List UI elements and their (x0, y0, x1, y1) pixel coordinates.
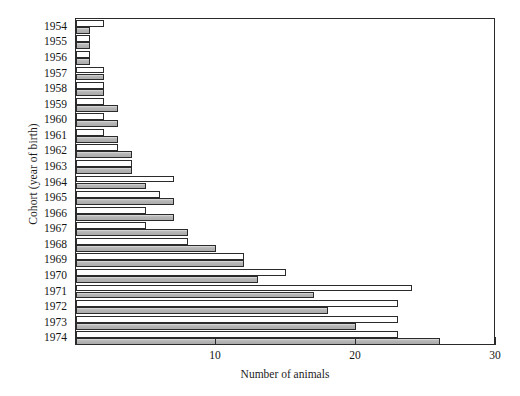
y-axis-tick-label: 1960 (44, 113, 67, 125)
bar-open-1974 (76, 331, 398, 338)
bar-open-1960 (76, 113, 104, 120)
y-axis-tick-label: 1959 (44, 98, 67, 110)
y-axis-tick-label: 1958 (44, 82, 67, 94)
bar-open-1962 (76, 144, 118, 151)
bar-filled-1954 (76, 27, 90, 34)
bar-open-1959 (76, 98, 104, 105)
bar-open-1972 (76, 300, 398, 307)
bar-filled-1974 (76, 338, 440, 345)
bar-filled-1960 (76, 120, 118, 127)
x-axis-tick-label: 20 (335, 349, 375, 361)
bar-filled-1966 (76, 214, 174, 221)
y-axis-tick-labels: 1954195519561957195819591960196119621963… (0, 18, 72, 345)
bar-filled-1962 (76, 151, 132, 158)
bar-open-1961 (76, 129, 104, 136)
y-axis-tick-label: 1961 (44, 129, 67, 141)
bar-open-1964 (76, 176, 174, 183)
bar-chart: Cohort (year of birth) 19541955195619571… (0, 0, 520, 396)
y-axis-tick-label: 1970 (44, 269, 67, 281)
bar-filled-1964 (76, 183, 146, 190)
plot-area (75, 18, 495, 345)
y-axis-tick-label: 1974 (44, 331, 67, 343)
bar-filled-1967 (76, 229, 188, 236)
bar-filled-1963 (76, 167, 132, 174)
x-axis-tick-label: 10 (195, 349, 235, 361)
y-axis-tick-label: 1973 (44, 316, 67, 328)
y-axis-tick-label: 1954 (44, 20, 67, 32)
bar-filled-1969 (76, 260, 244, 267)
bar-filled-1973 (76, 323, 356, 330)
bar-filled-1959 (76, 105, 118, 112)
y-axis-tick-label: 1962 (44, 144, 67, 156)
bar-filled-1955 (76, 42, 90, 49)
x-axis-tick-mark (495, 337, 496, 345)
y-axis-tick-label: 1965 (44, 191, 67, 203)
bar-open-1963 (76, 160, 132, 167)
x-axis-title: Number of animals (75, 368, 495, 380)
bar-open-1966 (76, 207, 146, 214)
y-axis-tick-label: 1968 (44, 238, 67, 250)
bar-open-1970 (76, 269, 286, 276)
y-axis-tick-label: 1972 (44, 300, 67, 312)
bar-filled-1956 (76, 58, 90, 65)
bar-open-1965 (76, 191, 160, 198)
bar-filled-1965 (76, 198, 174, 205)
bar-open-1955 (76, 35, 90, 42)
bar-filled-1961 (76, 136, 118, 143)
y-axis-tick-label: 1964 (44, 176, 67, 188)
bar-open-1971 (76, 285, 412, 292)
y-axis-tick-label: 1967 (44, 222, 67, 234)
bar-filled-1958 (76, 89, 104, 96)
y-axis-tick-label: 1971 (44, 285, 67, 297)
y-axis-tick-label: 1955 (44, 35, 67, 47)
bar-open-1957 (76, 67, 104, 74)
bar-filled-1968 (76, 245, 216, 252)
y-axis-tick-label: 1956 (44, 51, 67, 63)
y-axis-tick-label: 1963 (44, 160, 67, 172)
bar-open-1973 (76, 316, 398, 323)
bar-filled-1957 (76, 74, 104, 81)
y-axis-tick-label: 1966 (44, 207, 67, 219)
bar-filled-1971 (76, 292, 314, 299)
bar-open-1968 (76, 238, 188, 245)
bar-open-1956 (76, 51, 90, 58)
bar-open-1969 (76, 253, 244, 260)
bar-filled-1970 (76, 276, 258, 283)
bar-open-1967 (76, 222, 146, 229)
y-axis-tick-label: 1957 (44, 67, 67, 79)
y-axis-tick-label: 1969 (44, 253, 67, 265)
bars-container (76, 19, 494, 344)
x-axis-tick-label: 30 (475, 349, 515, 361)
bar-filled-1972 (76, 307, 328, 314)
bar-open-1954 (76, 20, 104, 27)
bar-open-1958 (76, 82, 104, 89)
